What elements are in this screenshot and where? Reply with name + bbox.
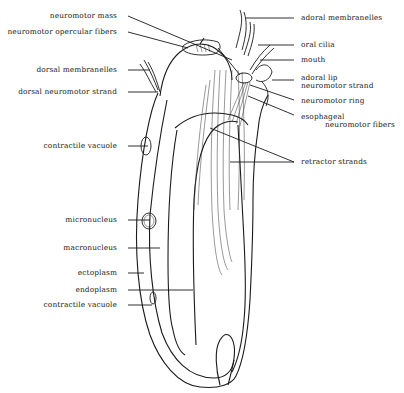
label-mouth: mouth	[301, 56, 325, 64]
label-esophageal-neuromotor-fibers: neuromotor fibers	[325, 121, 395, 129]
organism-drawing	[0, 0, 404, 393]
ciliate-anatomy-diagram: neuromotor mass neuromotor opercular fib…	[0, 0, 404, 393]
label-micronucleus: micronucleus	[65, 216, 117, 224]
label-neuromotor-strand: neuromotor strand	[301, 82, 374, 90]
label-dorsal-neuromotor-strand: dorsal neuromotor strand	[18, 88, 117, 96]
label-adoral-membranelles: adoral membranelles	[301, 14, 382, 22]
label-contractile-vacuole-upper: contractile vacuole	[44, 142, 117, 150]
label-endoplasm: endoplasm	[75, 286, 117, 294]
label-ectoplasm: ectoplasm	[78, 269, 117, 277]
label-neuromotor-opercular-fibers: neuromotor opercular fibers	[7, 28, 117, 36]
label-retractor-strands: retractor strands	[301, 158, 367, 166]
label-neuromotor-ring: neuromotor ring	[301, 97, 365, 105]
label-oral-cilia: oral cilia	[301, 41, 335, 49]
label-contractile-vacuole-lower: contractile vacuole	[44, 301, 117, 309]
label-dorsal-membranelles: dorsal membranelles	[36, 66, 117, 74]
label-neuromotor-mass: neuromotor mass	[50, 12, 117, 20]
label-macronucleus: macronucleus	[63, 244, 117, 252]
